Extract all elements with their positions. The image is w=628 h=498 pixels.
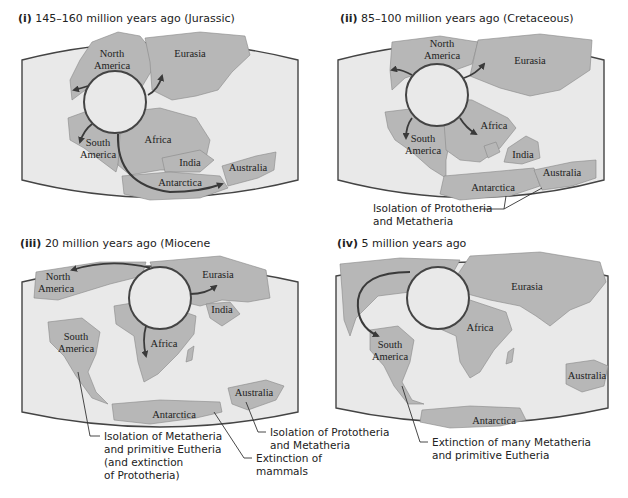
panel-ii-label-north-america: North: [430, 38, 455, 49]
panel-iii-note-extinction-mammals: Extinction of mammals: [256, 452, 322, 478]
panel-iii-note-isolation-metatheria: Isolation of Metatheria and primitive Eu…: [104, 430, 222, 482]
panel-ii-label-south-america: South: [411, 133, 436, 144]
panel-iv-dispersal-circle: [407, 267, 469, 329]
panel-ii-label-africa: Africa: [481, 120, 508, 131]
panel-iv-label-eurasia: Eurasia: [511, 281, 543, 292]
panel-iii-label-north-america: North: [46, 271, 71, 282]
panel-i-label-africa: Africa: [145, 134, 172, 145]
panel-ii-map: North America Eurasia South America Afri…: [338, 34, 604, 209]
panel-ii-label-antarctica: Antarctica: [471, 182, 515, 193]
panel-ii-dispersal-circle: [406, 64, 468, 126]
diagram-canvas: North America Eurasia South America Afri…: [0, 0, 628, 498]
panel-iv-label-africa: Africa: [467, 322, 494, 333]
panel-iii-note-isolation-prototheria: Isolation of Prototheria and Metatheria: [270, 426, 389, 452]
panel-i-label-north-america: North: [100, 48, 125, 59]
panel-iii-dispersal-circle: [129, 267, 191, 329]
panel-iii-label-north-america-2: America: [38, 283, 74, 294]
panel-iii-label-antarctica: Antarctica: [152, 409, 196, 420]
panel-iii-map: North America Eurasia India South Americ…: [22, 256, 298, 458]
panel-i-dispersal-circle: [84, 71, 146, 133]
panel-iv-label-australia: Australia: [568, 370, 607, 381]
panel-i-label-australia: Australia: [229, 162, 268, 173]
panel-i-label-south-america-2: America: [80, 149, 116, 160]
panel-iv-label-south-america: South: [378, 339, 403, 350]
panel-iii-label-africa: Africa: [151, 338, 178, 349]
panel-iv-map: Eurasia Africa South America Australia A…: [336, 252, 608, 442]
panel-iv-note-extinction: Extinction of many Metatheria and primit…: [432, 436, 591, 462]
panel-i-label-eurasia: Eurasia: [174, 48, 206, 59]
panel-ii-label-eurasia: Eurasia: [514, 55, 546, 66]
panel-i-label-india: India: [179, 157, 201, 168]
panel-iii-label-south-america: South: [64, 331, 89, 342]
panel-ii-label-india: India: [512, 149, 534, 160]
panel-iii-label-india: India: [211, 304, 233, 315]
panel-iii-label-south-america-2: America: [58, 343, 94, 354]
panel-iv-label-antarctica: Antarctica: [472, 415, 516, 426]
panel-iv-label-south-america-2: America: [372, 351, 408, 362]
panel-ii-label-south-america-2: America: [405, 145, 441, 156]
panel-ii-note-isolation: Isolation of Prototheria and Metatheria: [373, 202, 492, 228]
panel-i-label-south-america: South: [86, 137, 111, 148]
panel-i-map: North America Eurasia South America Afri…: [22, 32, 298, 200]
panel-iii-label-australia: Australia: [235, 387, 274, 398]
panel-i-label-antarctica: Antarctica: [158, 177, 202, 188]
panel-i-label-north-america-2: America: [94, 60, 130, 71]
panel-iii-label-eurasia: Eurasia: [202, 269, 234, 280]
panel-ii-label-north-america-2: America: [424, 50, 460, 61]
panel-ii-label-australia: Australia: [543, 167, 582, 178]
